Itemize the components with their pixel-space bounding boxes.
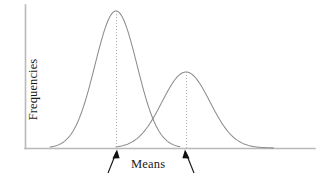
distribution-curve-2 xyxy=(116,72,274,148)
distribution-curve-1 xyxy=(50,11,180,147)
arrow-to-mean-2-icon xyxy=(182,150,194,174)
x-axis-label: Means xyxy=(131,157,165,172)
distribution-figure: Frequencies Means xyxy=(0,0,320,179)
arrow-to-mean-1-icon xyxy=(108,150,120,174)
x-axis-label-text: Means xyxy=(131,157,165,171)
plot-area xyxy=(0,0,320,179)
